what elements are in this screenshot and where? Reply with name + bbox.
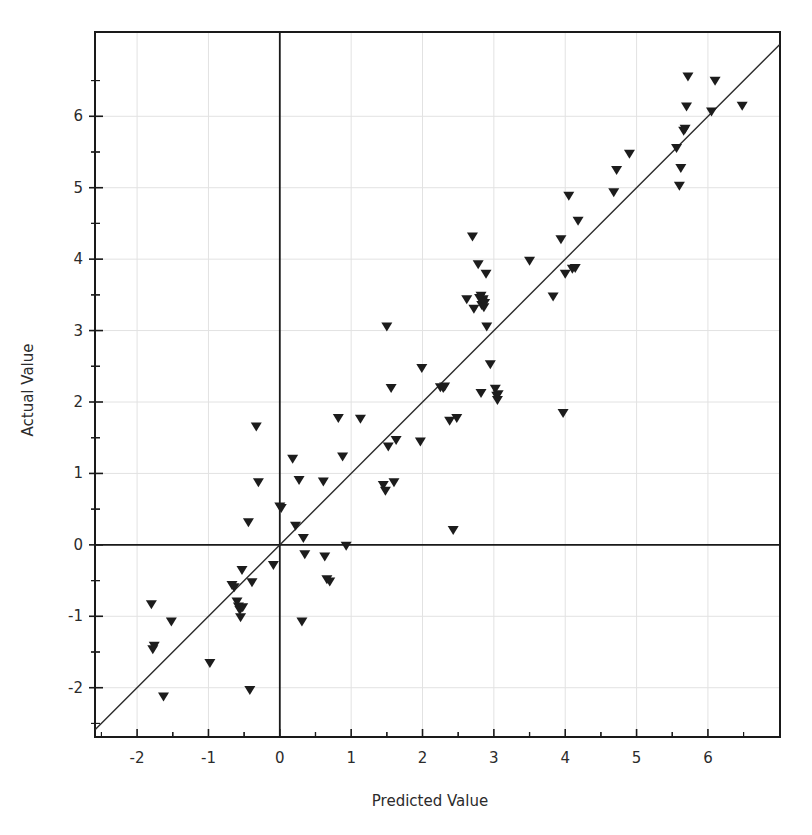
x-tick-label: 0 (275, 749, 285, 767)
y-tick-label: 1 (73, 464, 83, 482)
scatter-plot-figure: -2-10123456 -2-10123456 Predicted Value … (0, 0, 812, 835)
y-tick-label: -2 (68, 679, 83, 697)
x-tick-label: -2 (130, 749, 145, 767)
x-tick-label: 3 (489, 749, 499, 767)
y-tick-label: 2 (73, 393, 83, 411)
x-tick-label: 5 (632, 749, 642, 767)
x-tick-label: -1 (201, 749, 216, 767)
x-tick-label: 6 (703, 749, 713, 767)
y-tick-label: -1 (68, 607, 83, 625)
x-tick-label: 1 (346, 749, 356, 767)
plot-canvas: -2-10123456 -2-10123456 Predicted Value … (0, 0, 812, 835)
y-tick-label: 6 (73, 107, 83, 125)
x-tick-label: 4 (560, 749, 570, 767)
y-tick-label: 3 (73, 322, 83, 340)
y-tick-label: 0 (73, 536, 83, 554)
y-tick-label: 4 (73, 250, 83, 268)
y-axis-title: Actual Value (19, 344, 37, 437)
x-axis-title: Predicted Value (372, 792, 488, 810)
y-tick-label: 5 (73, 179, 83, 197)
x-tick-label: 2 (418, 749, 428, 767)
